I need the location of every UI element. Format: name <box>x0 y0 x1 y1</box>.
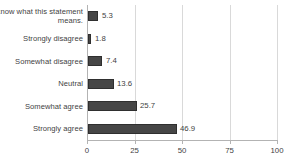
bar-row: Somewhat agree 25.7 <box>0 95 285 118</box>
bar-value-label: 7.4 <box>106 56 117 66</box>
xtick-label-75: 75 <box>217 146 243 156</box>
xtick-mark-100 <box>277 140 278 144</box>
xtick-label-100: 100 <box>264 146 285 156</box>
category-label: Neutral <box>0 79 83 88</box>
category-label: I don't know what this statement means. <box>0 7 83 25</box>
xtick-label-50: 50 <box>169 146 195 156</box>
xtick-mark-50 <box>182 140 183 144</box>
category-label: Strongly agree <box>0 124 83 133</box>
bar <box>88 11 98 21</box>
bar-row: Strongly agree 46.9 <box>0 118 285 141</box>
category-label: Somewhat disagree <box>0 57 83 66</box>
xtick-mark-0 <box>87 140 88 144</box>
xtick-label-0: 0 <box>74 146 100 156</box>
bar <box>88 79 114 89</box>
bar-value-label: 46.9 <box>180 124 195 134</box>
bar-row: Strongly disagree 1.8 <box>0 28 285 51</box>
category-label: Somewhat agree <box>0 102 83 111</box>
bar-value-label: 5.3 <box>102 11 113 21</box>
bar-value-label: 1.8 <box>95 34 106 44</box>
bar-value-label: 25.7 <box>140 101 155 111</box>
bar-chart: I don't know what this statement means. … <box>0 0 285 166</box>
category-label: Strongly disagree <box>0 34 83 43</box>
bar-row: I don't know what this statement means. … <box>0 5 285 28</box>
xtick-label-25: 25 <box>122 146 148 156</box>
bar <box>88 56 102 66</box>
bar <box>88 34 91 44</box>
bar <box>88 101 137 111</box>
bar-value-label: 13.6 <box>117 79 132 89</box>
xtick-mark-75 <box>230 140 231 144</box>
xtick-mark-25 <box>135 140 136 144</box>
bar <box>88 124 177 134</box>
bar-row: Somewhat disagree 7.4 <box>0 50 285 73</box>
bar-row: Neutral 13.6 <box>0 73 285 96</box>
